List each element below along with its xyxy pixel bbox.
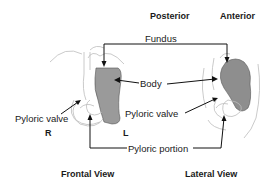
frontal-view-label: Frontal View: [61, 170, 114, 179]
fundus-arrowhead-left: [102, 61, 107, 67]
right-side-label: R: [45, 129, 52, 138]
diagram-drawing: [0, 0, 274, 186]
body-arrowhead-right: [212, 76, 218, 82]
left-side-label: L: [123, 129, 129, 138]
pyloric-valve-left-label: Pyloric valve: [15, 114, 68, 124]
posterior-label: Posterior: [150, 12, 190, 21]
frontal-stomach-body: [95, 68, 121, 124]
pyloric-valve-right-label: Pyloric valve: [125, 109, 178, 119]
pyloric-portion-label: Pyloric portion: [128, 144, 188, 154]
lateral-view-label: Lateral View: [185, 170, 237, 179]
fundus-leader: [104, 44, 227, 64]
fundus-label: Fundus: [145, 34, 177, 44]
body-label: Body: [140, 79, 162, 89]
stomach-diagram: Posterior Anterior Fundus Body Pyloric v…: [0, 0, 274, 186]
pyloric-portion-arrowhead-right: [222, 115, 227, 121]
anterior-label: Anterior: [220, 12, 255, 21]
body-leader: [117, 79, 215, 84]
